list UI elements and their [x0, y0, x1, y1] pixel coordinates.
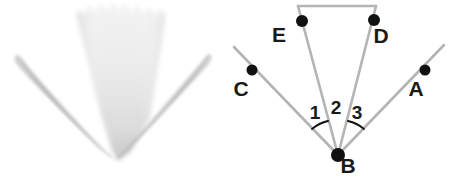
point-label-d: D [373, 24, 388, 47]
point-e-dot [296, 15, 308, 27]
blurred-plant-photograph-panel [0, 0, 224, 185]
angle-diagram-panel: C E D A B 1 2 3 [224, 0, 449, 185]
point-label-e: E [272, 23, 286, 46]
angle-label-1: 1 [310, 102, 321, 123]
point-label-b: B [340, 154, 355, 177]
diagram-canvas: C E D A B 1 2 3 [224, 0, 449, 185]
photo-canvas [0, 0, 224, 185]
point-label-c: C [233, 77, 248, 100]
point-c-dot [247, 65, 258, 76]
figure-root: C E D A B 1 2 3 [0, 0, 449, 185]
angle-label-2: 2 [331, 97, 342, 118]
point-a-dot [420, 65, 431, 76]
angle-label-3: 3 [352, 102, 363, 123]
point-label-a: A [408, 77, 423, 100]
